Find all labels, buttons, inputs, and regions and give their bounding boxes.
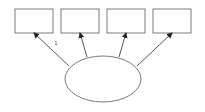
path-arrow-1[interactable] bbox=[34, 33, 69, 66]
path-arrow-2[interactable] bbox=[80, 33, 87, 57]
latent-variable-ellipse[interactable] bbox=[65, 56, 141, 102]
path-diagram: 1 bbox=[0, 0, 205, 112]
indicator-box-1[interactable] bbox=[15, 9, 53, 33]
indicator-box-4[interactable] bbox=[153, 9, 191, 33]
path-arrow-4[interactable] bbox=[137, 33, 172, 66]
indicator-box-3[interactable] bbox=[107, 9, 145, 33]
path-label-1: 1 bbox=[54, 40, 58, 46]
indicator-box-2[interactable] bbox=[61, 9, 99, 33]
path-arrow-3[interactable] bbox=[119, 33, 126, 57]
